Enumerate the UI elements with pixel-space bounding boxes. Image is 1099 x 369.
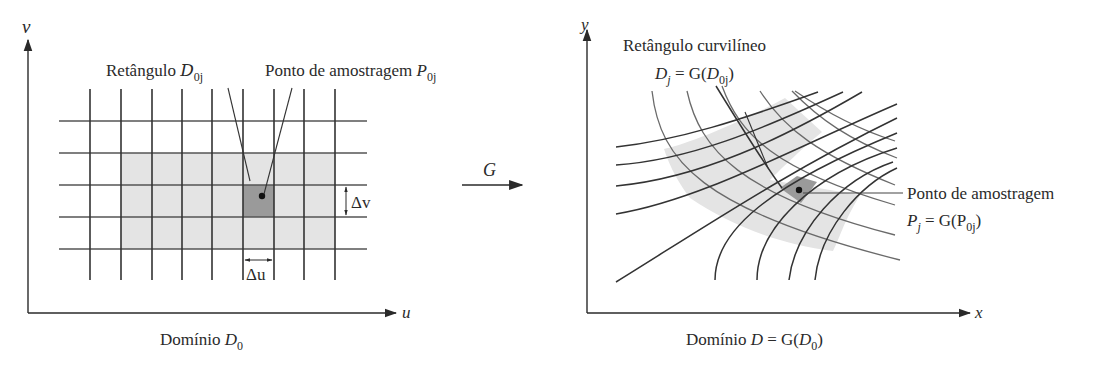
sample-rectangle [243,185,274,217]
delta-u-label: Δu [246,265,266,284]
label-sample-point-P0j: Ponto de amostragem P0j [265,61,436,84]
left-panel: v u Retângulo D0j Ponto de amostragem P0… [22,16,436,353]
label-sample-point-formula: Pj = G(P0j) [906,211,981,234]
x-axis-label: x [974,303,983,322]
label-sample-point-title: Ponto de amostragem [907,184,1054,203]
label-curvilinear-rectangle-formula: Dj = G(D0j) [654,64,734,87]
delta-v-label: Δv [351,193,371,212]
figure-svg: v u Retângulo D0j Ponto de amostragem P0… [0,0,1099,369]
figure-change-of-variables: v u Retângulo D0j Ponto de amostragem P0… [0,0,1099,369]
label-rectangle-D0j: Retângulo D0j [106,60,203,84]
right-panel: y x Retângulo curvilíneo Dj = G(D0j) Pon… [579,15,1054,353]
y-axis-label: y [579,15,589,34]
u-axis-label: u [402,303,411,322]
map-label-G: G [483,160,496,180]
map-arrow-G: G [462,160,522,185]
label-curvilinear-rectangle-title: Retângulo curvilíneo [623,36,766,55]
domain-D-caption: Domínio D = G(D0) [686,330,823,353]
domain-D0-caption: Domínio D0 [160,330,243,353]
sample-point-Pj [796,187,802,193]
shaded-domain-region [121,153,335,249]
v-axis-label: v [22,16,31,37]
